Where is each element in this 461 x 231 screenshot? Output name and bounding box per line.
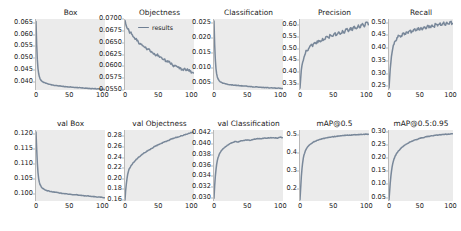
y-tick-mark-map-0-5-0-95 <box>386 197 389 198</box>
plot-area-map-0-5-0-95 <box>389 130 453 201</box>
y-tick-mark-map-0-5-0-95 <box>386 144 389 145</box>
y-tick-label-map-0-5-0-95: 0.10 <box>0 181 386 188</box>
y-tick-mark-map-0-5-0-95 <box>386 131 389 132</box>
y-tick-label-map-0-5-0-95: 0.05 <box>0 194 386 201</box>
y-tick-label-map-0-5-0-95: 0.15 <box>0 168 386 175</box>
x-tick-label-map-0-5-0-95: 0 <box>387 203 391 210</box>
x-tick-label-map-0-5-0-95: 50 <box>416 203 424 210</box>
curve-map-0-5-0-95 <box>389 130 453 201</box>
y-tick-mark-map-0-5-0-95 <box>386 158 389 159</box>
y-tick-mark-map-0-5-0-95 <box>386 171 389 172</box>
y-tick-label-map-0-5-0-95: 0.25 <box>0 141 386 148</box>
y-tick-label-map-0-5-0-95: 0.20 <box>0 155 386 162</box>
y-tick-label-map-0-5-0-95: 0.30 <box>0 128 386 135</box>
x-tick-label-map-0-5-0-95: 100 <box>444 203 457 210</box>
y-tick-mark-map-0-5-0-95 <box>386 184 389 185</box>
